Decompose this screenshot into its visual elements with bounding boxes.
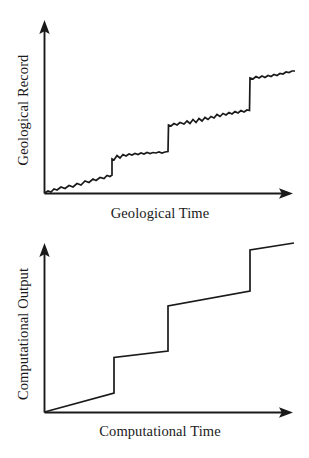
computational-chart-svg: Computational Time Computational Output xyxy=(0,229,309,458)
y-axis-label: Geological Record xyxy=(15,54,31,165)
y-axis-label: Computational Output xyxy=(15,268,31,400)
computational-output-curve xyxy=(45,243,295,412)
x-axis-label: Geological Time xyxy=(111,205,210,221)
computational-chart-panel: Computational Time Computational Output xyxy=(0,229,309,458)
geological-chart-panel: Geological Time Geological Record xyxy=(0,0,309,229)
geological-chart-svg: Geological Time Geological Record xyxy=(0,0,309,229)
x-axis-label: Computational Time xyxy=(99,423,220,439)
geological-record-curve xyxy=(45,71,296,193)
